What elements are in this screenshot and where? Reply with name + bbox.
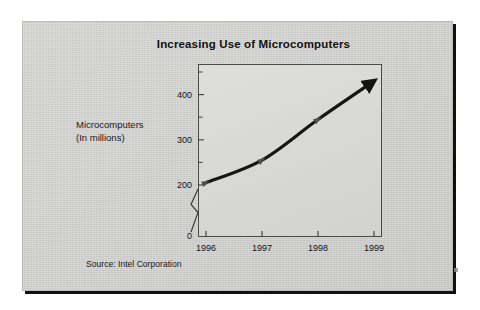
y-tick-label: 0 [187, 231, 192, 241]
y-tick-label: 200 [177, 180, 192, 190]
x-tick-label: 1997 [252, 243, 272, 253]
chart-plot-area: 400 300 200 0 1996 1997 1998 1999 [198, 64, 382, 237]
x-tick-label: 1999 [364, 243, 384, 253]
y-tick-label: 400 [177, 90, 192, 100]
series-line-microcomputers [206, 81, 374, 183]
source-note: Source: Intel Corporation [86, 259, 182, 269]
y-axis-caption-line-2: (In millions) [76, 131, 144, 144]
scan-artifact-speck [454, 268, 458, 272]
slide-card: Increasing Use of Microcomputers Microco… [22, 21, 453, 291]
page-title: Increasing Use of Microcomputers [23, 38, 452, 50]
axis-tick-marks [198, 72, 374, 237]
chart-svg [198, 64, 382, 237]
y-tick-label: 300 [177, 135, 192, 145]
x-tick-label: 1996 [196, 243, 216, 253]
series-data-markers [201, 115, 323, 187]
x-tick-label: 1998 [308, 243, 328, 253]
y-axis-caption: Microcomputers (In millions) [76, 118, 144, 144]
y-axis-caption-line-1: Microcomputers [76, 118, 144, 131]
slide-canvas: Increasing Use of Microcomputers Microco… [0, 0, 480, 310]
y-axis-break-icon [191, 189, 198, 232]
